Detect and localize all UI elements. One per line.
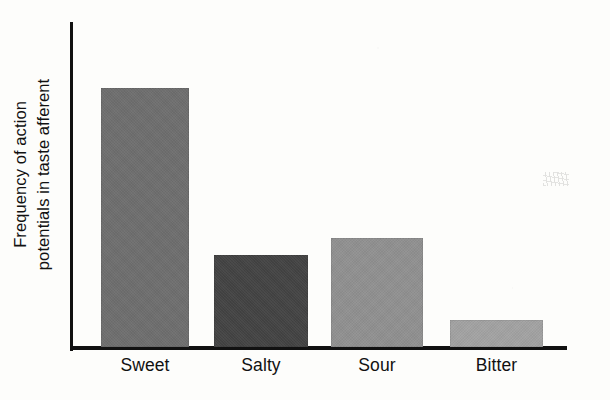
bar-sweet bbox=[101, 88, 189, 347]
y-axis-label-text: Frequency of action potentials in taste … bbox=[10, 79, 57, 270]
bar-bitter bbox=[450, 320, 543, 347]
x-axis-tick-label-bitter: Bitter bbox=[437, 355, 557, 376]
x-axis-tick-label-sweet: Sweet bbox=[85, 355, 205, 376]
y-axis-label-line-2: potentials in taste afferent bbox=[33, 79, 56, 270]
x-axis-tick-label-sour: Sour bbox=[317, 355, 437, 376]
taste-frequency-bar-chart: Frequency of action potentials in taste … bbox=[0, 0, 610, 400]
bar-sour bbox=[331, 238, 423, 347]
y-axis-label: Frequency of action potentials in taste … bbox=[0, 0, 66, 349]
y-axis-label-line-1: Frequency of action bbox=[10, 79, 33, 270]
scan-artifact bbox=[543, 172, 569, 186]
y-axis-line bbox=[70, 22, 73, 351]
plot-area bbox=[0, 0, 610, 400]
x-axis-tick-label-salty: Salty bbox=[201, 355, 321, 376]
bar-salty bbox=[214, 255, 308, 347]
